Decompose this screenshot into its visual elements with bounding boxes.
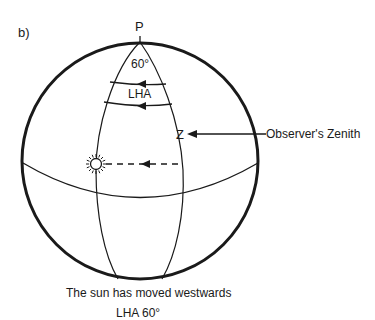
sun-path-arrowhead (141, 160, 150, 168)
lha-arrowhead-lower (137, 102, 146, 110)
celestial-equator (23, 163, 258, 198)
lha-arc-lower (104, 102, 172, 106)
zenith-pointer-arrowhead (187, 130, 197, 138)
figure-label: b) (18, 26, 30, 39)
observer-meridian (140, 42, 183, 279)
angle-label: 60° (131, 58, 149, 70)
sun-icon (86, 154, 106, 174)
sun-hour-circle (96, 42, 140, 279)
zenith-label: Z (176, 128, 184, 141)
celestial-sphere-diagram (0, 0, 375, 320)
pole-label: P (135, 20, 144, 33)
celestial-sphere-outline (22, 43, 258, 279)
caption-line-2: LHA 60° (116, 307, 160, 319)
caption-line-1: The sun has moved westwards (66, 287, 231, 299)
lha-label: LHA (128, 88, 151, 100)
zenith-annotation: Observer's Zenith (266, 128, 360, 140)
